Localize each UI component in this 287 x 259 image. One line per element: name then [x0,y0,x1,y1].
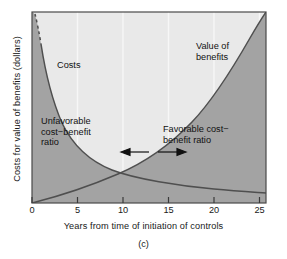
x-tick-label-5: 5 [75,205,80,215]
x-tick-label-10: 10 [118,205,128,215]
unfavorable-label: Unfavorable cost−benefit ratio [41,116,91,148]
figure-container: Costs for value of benefits (dollars) [0,0,287,259]
x-tick-label-20: 20 [209,205,219,215]
x-tick-label-0: 0 [29,205,34,215]
favorable-label: Favorable cost− benefit ratio [163,124,229,145]
panel-caption: (c) [0,239,287,249]
x-axis-label: Years from time of initiation of control… [0,221,287,231]
x-tick-label-25: 25 [254,205,264,215]
x-tick-label-15: 15 [163,205,173,215]
benefits-label: Value of benefits [196,41,229,62]
costs-label: Costs [57,60,81,71]
